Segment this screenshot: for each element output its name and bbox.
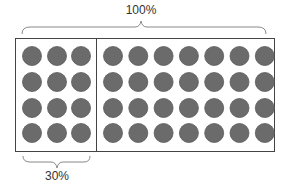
- grid-circle: [23, 73, 42, 92]
- grid-circle: [205, 99, 224, 118]
- grid-circle: [129, 99, 148, 118]
- grid-circle: [154, 99, 173, 118]
- grid-circle: [72, 47, 91, 66]
- grid-circle: [23, 99, 42, 118]
- percent-grid-diagram: [0, 0, 285, 187]
- bottom-brace: [23, 156, 90, 168]
- grid-circle: [255, 99, 274, 118]
- grid-circle: [255, 73, 274, 92]
- top-label: 100%: [116, 3, 166, 17]
- grid-circle: [154, 73, 173, 92]
- grid-circle: [205, 73, 224, 92]
- grid-circle: [154, 124, 173, 143]
- grid-circle: [205, 47, 224, 66]
- grid-circle: [179, 99, 198, 118]
- grid-circle: [230, 73, 249, 92]
- bottom-label: 30%: [32, 169, 82, 183]
- grid-circle: [179, 124, 198, 143]
- grid-circle: [205, 124, 224, 143]
- grid-circle: [179, 73, 198, 92]
- grid-circle: [104, 47, 123, 66]
- grid-circle: [104, 124, 123, 143]
- grid-circle: [23, 124, 42, 143]
- circle-grid: [23, 47, 275, 143]
- grid-circle: [72, 73, 91, 92]
- grid-circle: [230, 124, 249, 143]
- grid-circle: [230, 47, 249, 66]
- grid-circle: [48, 99, 67, 118]
- grid-circle: [72, 99, 91, 118]
- grid-circle: [255, 124, 274, 143]
- grid-circle: [48, 47, 67, 66]
- grid-circle: [129, 73, 148, 92]
- grid-circle: [255, 47, 274, 66]
- grid-circle: [48, 73, 67, 92]
- grid-circle: [179, 47, 198, 66]
- grid-circle: [129, 124, 148, 143]
- grid-circle: [154, 47, 173, 66]
- grid-circle: [104, 73, 123, 92]
- grid-circle: [129, 47, 148, 66]
- top-brace: [22, 21, 266, 34]
- grid-circle: [23, 47, 42, 66]
- grid-circle: [72, 124, 91, 143]
- grid-circle: [104, 99, 123, 118]
- grid-circle: [230, 99, 249, 118]
- grid-circle: [48, 124, 67, 143]
